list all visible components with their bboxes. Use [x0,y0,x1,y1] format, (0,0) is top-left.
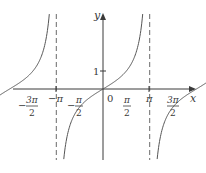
x-tick-label-pi-2-den: 2 [124,108,130,118]
x-tick-label-3pi-2-num: 3π [167,95,180,105]
x-tick-label-neg-pi: −π [48,93,63,104]
x-tick-label-neg-pi-2-num: π [75,95,83,105]
x-tick-label-neg-3pi-2-den: 2 [29,108,35,118]
x-tick-label-3pi-2-den: 2 [170,108,176,118]
tan-curve-branch [157,14,206,159]
x-tick-label-neg-pi-2-den: 2 [76,108,82,118]
x-tick-label-pi: π [145,93,153,104]
tangent-graph: y x 0 1 − 3π 2 −π − π 2 π 2 π 3π 2 [0,0,206,173]
axes [13,13,196,160]
tan-curve-branch [0,14,49,159]
y-tick-label-1: 1 [93,66,99,77]
y-axis-arrow-icon [100,13,106,20]
axis-labels: y x 0 1 − 3π 2 −π − π 2 π 2 π 3π 2 [18,9,197,118]
x-axis-label: x [190,92,197,105]
x-tick-label-pi-2-num: π [123,95,131,105]
y-axis-label: y [93,9,101,22]
origin-label: 0 [107,93,113,104]
x-tick-label-neg-3pi-2-num: 3π [26,95,39,105]
minus-sign: − [67,100,75,111]
